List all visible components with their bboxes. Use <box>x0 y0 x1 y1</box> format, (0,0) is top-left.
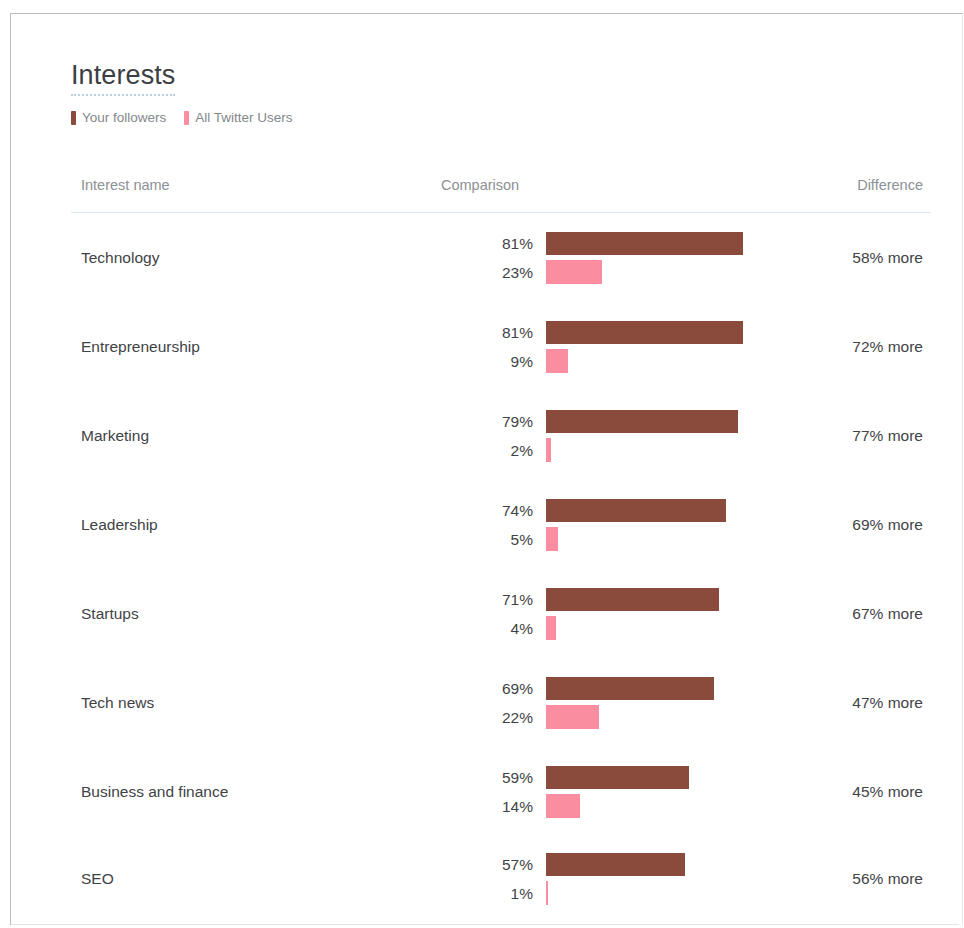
bar-row-your-followers: 59% <box>71 764 811 791</box>
bar-all-twitter-users <box>546 438 551 462</box>
bar-value-all-twitter-users: 14% <box>461 793 533 820</box>
legend-item-your-followers: Your followers <box>71 111 166 125</box>
table-row: Entrepreneurship81%9%72% more <box>71 302 931 391</box>
bar-value-your-followers: 81% <box>461 319 533 346</box>
legend-label: Your followers <box>82 111 166 125</box>
bar-row-all-twitter-users: 5% <box>71 526 811 553</box>
bar-value-all-twitter-users: 1% <box>461 880 533 907</box>
table-row: Tech news69%22%47% more <box>71 658 931 747</box>
bar-all-twitter-users <box>546 616 556 640</box>
bar-your-followers <box>546 232 743 255</box>
bar-value-your-followers: 59% <box>461 764 533 791</box>
difference-value: 58% more <box>852 248 923 268</box>
bar-your-followers <box>546 499 726 522</box>
bar-row-your-followers: 79% <box>71 408 811 435</box>
page-title: Interests <box>71 59 175 96</box>
table-row: SEO57%1%56% more <box>71 836 931 922</box>
legend-item-all-twitter-users: All Twitter Users <box>184 111 292 125</box>
comparison-bars: 59%14% <box>71 764 811 820</box>
difference-value: 45% more <box>852 782 923 802</box>
bar-row-all-twitter-users: 23% <box>71 259 811 286</box>
bar-your-followers <box>546 321 743 344</box>
table-row: Marketing79%2%77% more <box>71 391 931 480</box>
table-row: Leadership74%5%69% more <box>71 480 931 569</box>
comparison-bars: 79%2% <box>71 408 811 464</box>
interests-card: Interests Your followers All Twitter Use… <box>10 13 963 925</box>
bar-value-your-followers: 57% <box>461 851 533 878</box>
bar-row-your-followers: 74% <box>71 497 811 524</box>
bar-all-twitter-users <box>546 881 548 905</box>
bar-row-your-followers: 57% <box>71 851 811 878</box>
table-row: Startups71%4%67% more <box>71 569 931 658</box>
bar-your-followers <box>546 410 738 433</box>
comparison-bars: 81%23% <box>71 230 811 286</box>
chart-legend: Your followers All Twitter Users <box>71 110 931 126</box>
table-header-row: Interest name Comparison Difference <box>71 174 931 213</box>
bar-value-your-followers: 69% <box>461 675 533 702</box>
bar-value-your-followers: 81% <box>461 230 533 257</box>
bar-value-all-twitter-users: 9% <box>461 348 533 375</box>
bar-value-all-twitter-users: 2% <box>461 437 533 464</box>
bar-row-all-twitter-users: 2% <box>71 437 811 464</box>
difference-value: 72% more <box>852 337 923 357</box>
comparison-bars: 57%1% <box>71 851 811 907</box>
column-header-interest-name: Interest name <box>81 176 170 194</box>
comparison-bars: 71%4% <box>71 586 811 642</box>
bar-your-followers <box>546 677 714 700</box>
difference-value: 67% more <box>852 604 923 624</box>
comparison-bars: 81%9% <box>71 319 811 375</box>
bar-value-your-followers: 71% <box>461 586 533 613</box>
bar-all-twitter-users <box>546 260 602 284</box>
bar-all-twitter-users <box>546 527 558 551</box>
bar-value-all-twitter-users: 4% <box>461 615 533 642</box>
card-bottom-divider <box>11 924 959 925</box>
bar-row-all-twitter-users: 4% <box>71 615 811 642</box>
legend-swatch-icon <box>71 111 76 125</box>
interests-table: Interest name Comparison Difference Tech… <box>71 174 931 922</box>
bar-value-your-followers: 79% <box>461 408 533 435</box>
table-body: Technology81%23%58% moreEntrepreneurship… <box>71 213 931 922</box>
bar-row-all-twitter-users: 14% <box>71 793 811 820</box>
column-header-comparison: Comparison <box>441 176 519 194</box>
bar-value-all-twitter-users: 5% <box>461 526 533 553</box>
bar-row-your-followers: 69% <box>71 675 811 702</box>
bar-your-followers <box>546 588 719 611</box>
bar-row-your-followers: 81% <box>71 319 811 346</box>
difference-value: 56% more <box>852 869 923 889</box>
bar-value-all-twitter-users: 22% <box>461 704 533 731</box>
card-header: Interests Your followers All Twitter Use… <box>71 59 931 126</box>
bar-row-all-twitter-users: 22% <box>71 704 811 731</box>
difference-value: 77% more <box>852 426 923 446</box>
bar-row-your-followers: 71% <box>71 586 811 613</box>
table-row: Business and finance59%14%45% more <box>71 747 931 836</box>
difference-value: 47% more <box>852 693 923 713</box>
bar-all-twitter-users <box>546 349 568 373</box>
bar-value-your-followers: 74% <box>461 497 533 524</box>
bar-row-all-twitter-users: 9% <box>71 348 811 375</box>
bar-value-all-twitter-users: 23% <box>461 259 533 286</box>
difference-value: 69% more <box>852 515 923 535</box>
bar-your-followers <box>546 853 685 876</box>
legend-label: All Twitter Users <box>195 111 292 125</box>
legend-swatch-icon <box>184 111 189 125</box>
comparison-bars: 69%22% <box>71 675 811 731</box>
bar-row-your-followers: 81% <box>71 230 811 257</box>
bar-row-all-twitter-users: 1% <box>71 880 811 907</box>
comparison-bars: 74%5% <box>71 497 811 553</box>
table-row: Technology81%23%58% more <box>71 213 931 302</box>
bar-your-followers <box>546 766 689 789</box>
column-header-difference: Difference <box>857 176 923 194</box>
bar-all-twitter-users <box>546 705 599 729</box>
bar-all-twitter-users <box>546 794 580 818</box>
